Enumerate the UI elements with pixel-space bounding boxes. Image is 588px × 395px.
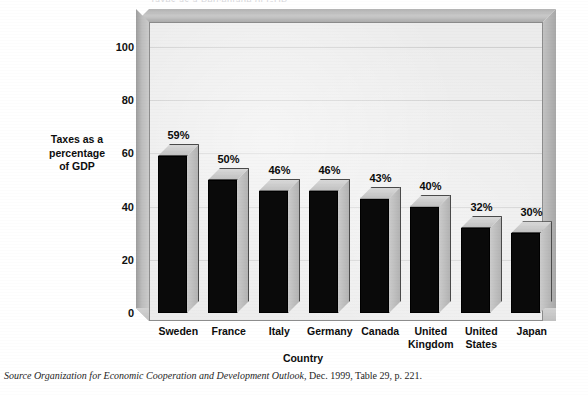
- y-tick-label-0: 0: [104, 308, 134, 318]
- bar-side-face: [490, 216, 502, 313]
- bar-side-face: [540, 221, 552, 313]
- y-axis-title-line-1: Taxes as a: [36, 133, 118, 147]
- bar-front-face: [360, 199, 389, 313]
- bar-united-states[interactable]: [461, 216, 490, 313]
- y-axis-title-line-2: percentage: [36, 147, 118, 161]
- bar-front-face: [309, 191, 338, 313]
- x-axis-title: Country: [0, 352, 588, 364]
- bar-canada[interactable]: [360, 187, 389, 313]
- chart-figure: Taxes as a Percentage of GDP 02040608010…: [0, 0, 588, 395]
- frame-top-bevel: [136, 9, 556, 22]
- bar-italy[interactable]: [259, 179, 288, 313]
- bar-front-face: [410, 207, 439, 313]
- bar-side-face: [389, 187, 401, 313]
- bar-france[interactable]: [208, 168, 237, 313]
- gridline-100: [150, 47, 542, 48]
- bar-side-face: [237, 168, 249, 313]
- y-tick-label-40: 40: [104, 202, 134, 212]
- bar-germany[interactable]: [309, 179, 338, 313]
- x-tick-label-line: Japan: [500, 325, 564, 338]
- bar-sweden[interactable]: [158, 144, 187, 313]
- y-axis-title: Taxes as a percentage of GDP: [36, 133, 118, 174]
- bar-front-face: [208, 180, 237, 313]
- y-tick-label-80: 80: [104, 95, 134, 105]
- y-tick-label-100: 100: [104, 42, 134, 52]
- bar-side-face: [288, 179, 300, 313]
- x-tick-label-japan: Japan: [500, 325, 564, 338]
- gridline-80: [150, 100, 542, 101]
- bar-side-face: [439, 195, 451, 313]
- x-tick-label-line: States: [449, 338, 513, 351]
- bar-united-kingdom[interactable]: [410, 195, 439, 313]
- bar-side-face: [187, 144, 199, 313]
- x-axis-title-text: Country: [283, 352, 323, 364]
- bar-japan[interactable]: [511, 221, 540, 313]
- cropped-title-sliver: Taxes as a Percentage of GDP: [150, 0, 450, 2]
- source-note: Source Organization for Economic Coopera…: [4, 370, 422, 381]
- gridline-60: [150, 153, 542, 154]
- y-axis-title-line-3: of GDP: [36, 160, 118, 174]
- y-tick-label-20: 20: [104, 255, 134, 265]
- source-note-roman: Dec. 1999, Table 29, p. 221.: [307, 370, 422, 381]
- bar-front-face: [511, 233, 540, 313]
- bar-front-face: [461, 228, 490, 313]
- source-note-italic: Source Organization for Economic Coopera…: [4, 370, 307, 381]
- bar-front-face: [259, 191, 288, 313]
- bar-side-face: [338, 179, 350, 313]
- bar-front-face: [158, 156, 187, 313]
